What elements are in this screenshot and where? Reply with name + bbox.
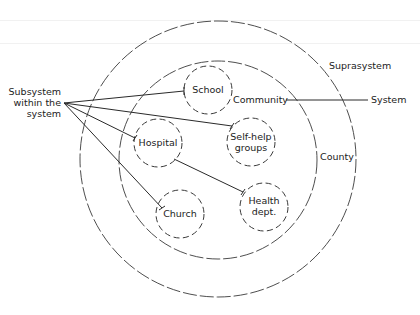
label-health-line2: dept. (252, 206, 277, 217)
label-school: School (192, 84, 224, 95)
label-county: County (320, 151, 354, 162)
label-subsystem-line3: system (27, 108, 61, 119)
label-church: Church (163, 208, 197, 219)
label-community: Community (233, 94, 288, 105)
subsystem-connectors (64, 87, 368, 210)
label-system: System (371, 94, 406, 105)
connector-to-school (64, 91, 184, 103)
connector-tick-hospital (133, 135, 137, 141)
connector-tick-health-dept (241, 189, 245, 195)
connector-hospital-to-health-dept (174, 159, 243, 192)
label-self-help-line2: groups (235, 142, 268, 153)
suprasystem-circle (80, 21, 356, 297)
systems-diagram: Subsystem within the system Suprasystem … (0, 0, 420, 315)
label-suprasystem: Suprasystem (329, 60, 391, 71)
label-hospital: Hospital (139, 137, 178, 148)
label-health-line1: Health (248, 195, 279, 206)
label-subsystem-line1: Subsystem (9, 86, 61, 97)
connector-to-church (64, 103, 162, 208)
label-subsystem-line2: within the (14, 97, 62, 108)
label-self-help-line1: Self-help (230, 131, 271, 142)
connector-to-self-help (64, 103, 232, 126)
